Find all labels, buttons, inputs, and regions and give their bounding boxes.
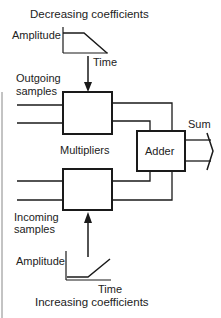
bottom-multiplier-box bbox=[63, 169, 112, 210]
adder-label: Adder bbox=[145, 145, 174, 158]
decreasing-coefficients-graph bbox=[63, 27, 108, 53]
sum-label: Sum bbox=[188, 118, 211, 131]
top-graph-y-label: Amplitude bbox=[12, 29, 61, 42]
bottom-coefficient-arrow bbox=[84, 212, 92, 257]
top-graph-curve bbox=[63, 33, 107, 53]
sum-output bbox=[185, 133, 213, 170]
incoming-samples-label-line2: samples bbox=[14, 223, 55, 236]
top-graph-title: Decreasing coefficients bbox=[30, 8, 149, 21]
multipliers-label: Multipliers bbox=[60, 144, 110, 157]
bottom-graph-x-label: Time bbox=[98, 283, 122, 296]
bottom-graph-curve bbox=[67, 259, 110, 277]
outgoing-samples-label-line2: samples bbox=[16, 85, 57, 98]
diagram-canvas bbox=[0, 0, 221, 318]
bottom-graph-title: Increasing coefficients bbox=[35, 296, 149, 309]
outgoing-samples-label-line1: Outgoing bbox=[16, 72, 61, 85]
top-graph-x-label: Time bbox=[93, 56, 117, 69]
top-coefficient-arrow bbox=[84, 56, 92, 92]
sum-output-arrowhead bbox=[207, 133, 213, 170]
bottom-graph-y-label: Amplitude bbox=[16, 255, 65, 268]
top-multiplier-box bbox=[63, 92, 112, 134]
